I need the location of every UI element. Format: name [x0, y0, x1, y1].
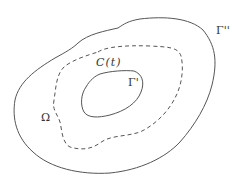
outer-boundary-curve — [14, 18, 215, 174]
label-outer-boundary: Γ'' — [216, 25, 230, 36]
label-inner-boundary: Γ' — [128, 77, 139, 88]
diagram-canvas: Γ'' C(t) Γ' Ω — [0, 0, 245, 185]
label-curve-ct: C(t) — [96, 57, 121, 68]
diagram-figure — [0, 0, 245, 185]
label-domain-omega: Ω — [41, 112, 50, 123]
